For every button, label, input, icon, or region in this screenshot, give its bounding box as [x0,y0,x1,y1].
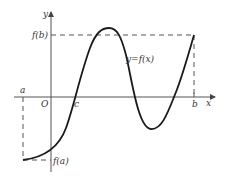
point-c-label: c [74,99,79,109]
y-axis-label: y [42,9,49,19]
fb-label: f(b) [31,30,49,40]
point-b-label: b [192,99,198,109]
curve-label: y=f(x) [125,54,155,64]
fa-label: f(a) [52,156,69,166]
point-a-label: a [20,85,25,95]
origin-label: O [41,99,49,109]
x-axis-label: x [206,98,211,108]
function-graph: y x O a b c f(b) f(a) y=f(x) [0,0,225,177]
function-curve [23,28,194,160]
